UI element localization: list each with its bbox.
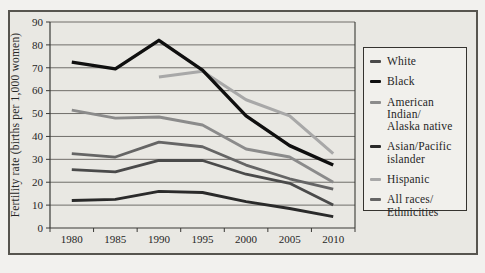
legend-item-all-races-ethnicities: All races/ Ethnicities xyxy=(370,193,462,218)
x-axis: 1980198519901995200020052010 xyxy=(50,228,355,245)
y-tick-label: 80 xyxy=(32,39,44,51)
y-tick-label: 30 xyxy=(32,153,44,165)
series-line-asian-pacific-islander xyxy=(72,191,333,216)
series-lines xyxy=(72,40,333,216)
legend-item-white: White xyxy=(370,55,462,67)
legend-line-swatch-all-races xyxy=(370,198,381,201)
legend-line-swatch-black xyxy=(370,80,381,83)
x-tick-label: 1995 xyxy=(192,233,215,245)
legend-label-all-races: All races/ Ethnicities xyxy=(387,193,438,218)
y-tick-label: 60 xyxy=(32,84,44,96)
legend-label-asian-pacific: Asian/Pacific islander xyxy=(387,140,452,165)
legend-label-black: Black xyxy=(387,75,415,87)
legend-line-swatch-white xyxy=(370,60,381,63)
y-tick-label: 50 xyxy=(32,107,44,119)
legend-line-swatch-american-indian xyxy=(370,101,381,104)
legend-label-hispanic: Hispanic xyxy=(387,173,429,185)
y-tick-label: 40 xyxy=(32,130,44,142)
y-axis: 0102030405060708090 xyxy=(32,16,50,234)
x-tick-label: 2010 xyxy=(322,233,345,245)
legend-line-swatch-hispanic xyxy=(370,178,381,181)
x-tick-label: 1990 xyxy=(148,233,171,245)
legend-label-white: White xyxy=(387,55,416,67)
y-tick-label: 90 xyxy=(32,16,44,28)
x-tick-label: 2000 xyxy=(235,233,258,245)
series-line-hispanic xyxy=(159,71,333,153)
legend-label-american-indian: American Indian/ Alaska native xyxy=(387,96,462,133)
y-tick-label: 70 xyxy=(32,62,44,74)
legend-item-hispanic: Hispanic xyxy=(370,173,462,185)
chart-figure: 0102030405060708090198019851990199520002… xyxy=(8,10,478,255)
x-tick-label: 1980 xyxy=(61,233,84,245)
y-tick-label: 20 xyxy=(32,176,44,188)
legend-item-asian-pacific-islander: Asian/Pacific islander xyxy=(370,140,462,165)
y-tick-label: 0 xyxy=(38,222,44,234)
legend-item-black: Black xyxy=(370,75,462,87)
y-axis-title: Fertility rate (births per 1,000 women) xyxy=(10,33,22,218)
y-tick-label: 10 xyxy=(32,199,44,211)
x-tick-label: 2005 xyxy=(279,233,302,245)
legend-item-american-indian-alaska-native: American Indian/ Alaska native xyxy=(370,96,462,133)
legend-line-swatch-asian-pacific xyxy=(370,145,381,148)
legend: White Black American Indian/ Alaska nati… xyxy=(363,47,467,211)
x-tick-label: 1985 xyxy=(104,233,127,245)
